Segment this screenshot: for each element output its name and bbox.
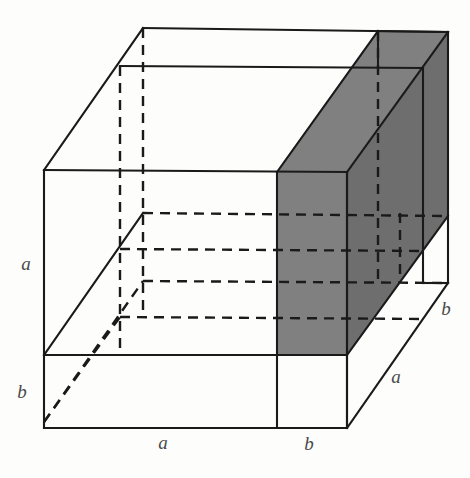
slab-top-right-edge [378, 31, 448, 32]
left-vertical-a: a [21, 253, 31, 274]
cube-decomposition-diagram: ababab [0, 0, 470, 478]
slab-front-face [277, 172, 347, 355]
figure-canvas: ababab [0, 0, 470, 478]
right-depth-b: b [441, 298, 451, 319]
left-vertical-b: b [17, 381, 27, 402]
bottom-front-a: a [158, 432, 168, 453]
bottom-front-b: b [304, 433, 314, 454]
right-depth-a: a [391, 366, 401, 387]
